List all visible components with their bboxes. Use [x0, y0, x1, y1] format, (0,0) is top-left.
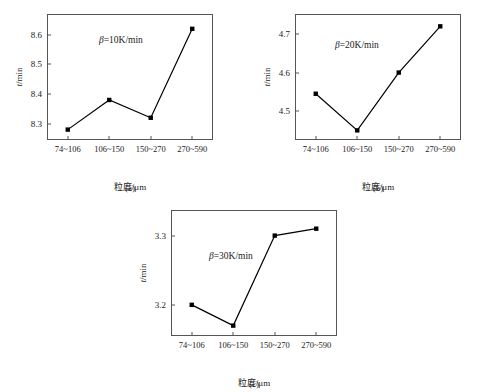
y-axis-unit-a: /min — [14, 67, 24, 84]
x-tick-mark-a-3 — [192, 136, 193, 140]
data-point-a-1 — [107, 98, 111, 102]
plot-area-b: t/min β=20K/min 4.54.64.774~106106~15015… — [295, 14, 461, 140]
y-tick-mark-b-2 — [295, 34, 299, 35]
x-tick-label-a-1: 106~150 — [94, 145, 124, 154]
series-line-a — [47, 14, 213, 140]
y-axis-symbol-b: t — [262, 84, 272, 87]
y-tick-mark-b-0 — [295, 111, 299, 112]
data-point-c-2 — [273, 233, 277, 237]
y-tick-mark-a-0 — [47, 123, 51, 124]
x-tick-label-a-0: 74~106 — [55, 145, 81, 154]
x-tick-label-a-3: 270~590 — [177, 145, 207, 154]
x-tick-label-c-3: 270~590 — [301, 341, 331, 350]
x-tick-mark-c-2 — [274, 332, 275, 336]
data-point-a-2 — [149, 116, 153, 120]
y-tick-mark-c-0 — [171, 304, 175, 305]
data-point-a-0 — [66, 127, 70, 131]
y-axis-title-b: t/min — [262, 67, 272, 86]
y-tick-label-b-1: 4.6 — [279, 68, 290, 77]
y-tick-label-b-0: 4.5 — [279, 107, 290, 116]
y-axis-symbol-c: t — [138, 280, 148, 283]
y-tick-label-a-2: 8.5 — [31, 60, 42, 69]
x-tick-label-b-1: 106~150 — [342, 145, 372, 154]
x-tick-mark-c-1 — [233, 332, 234, 336]
x-tick-label-b-0: 74~106 — [303, 145, 329, 154]
y-axis-symbol-a: t — [14, 84, 24, 87]
data-point-c-3 — [314, 226, 318, 230]
chart-panel-c: t/min β=30K/min 3.23.374~106106~150150~2… — [124, 196, 364, 392]
y-tick-mark-a-1 — [47, 94, 51, 95]
plot-area-c: t/min β=30K/min 3.23.374~106106~150150~2… — [171, 210, 337, 336]
y-tick-mark-c-1 — [171, 235, 175, 236]
series-line-b — [295, 14, 461, 140]
x-tick-mark-b-1 — [357, 136, 358, 140]
data-line-c — [192, 229, 317, 326]
data-point-b-0 — [314, 92, 318, 96]
y-tick-label-c-0: 3.2 — [155, 300, 166, 309]
x-tick-label-b-2: 150~270 — [384, 145, 414, 154]
panel-caption-b: (b) — [295, 184, 461, 193]
data-point-b-2 — [397, 70, 401, 74]
y-tick-mark-a-3 — [47, 34, 51, 35]
y-tick-label-a-1: 8.4 — [31, 90, 42, 99]
x-tick-label-c-2: 150~270 — [260, 341, 290, 350]
y-axis-title-c: t/min — [138, 263, 148, 282]
y-tick-label-c-1: 3.3 — [155, 231, 166, 240]
y-tick-mark-b-1 — [295, 72, 299, 73]
chart-panel-b: t/min β=20K/min 4.54.64.774~106106~15015… — [248, 0, 488, 196]
y-axis-unit-b: /min — [262, 67, 272, 84]
panel-caption-c: (c) — [171, 380, 337, 389]
x-tick-mark-a-0 — [67, 136, 68, 140]
data-point-b-1 — [355, 128, 359, 132]
data-point-b-3 — [438, 24, 442, 28]
y-axis-title-a: t/min — [14, 67, 24, 86]
x-tick-mark-b-2 — [398, 136, 399, 140]
data-point-c-0 — [190, 303, 194, 307]
y-tick-label-a-0: 8.3 — [31, 119, 42, 128]
x-tick-label-c-0: 74~106 — [179, 341, 205, 350]
data-line-b — [316, 26, 441, 130]
y-tick-mark-a-2 — [47, 64, 51, 65]
plot-area-a: t/min β=10K/min 8.38.48.58.674~106106~15… — [47, 14, 213, 140]
chart-panel-a: t/min β=10K/min 8.38.48.58.674~106106~15… — [0, 0, 240, 196]
x-tick-mark-c-3 — [316, 332, 317, 336]
y-tick-label-a-3: 8.6 — [31, 30, 42, 39]
x-tick-mark-b-0 — [315, 136, 316, 140]
x-tick-label-c-1: 106~150 — [218, 341, 248, 350]
x-tick-mark-a-1 — [109, 136, 110, 140]
panel-caption-a: (a) — [47, 184, 213, 193]
data-point-c-1 — [231, 323, 235, 327]
y-axis-unit-c: /min — [138, 263, 148, 280]
series-line-c — [171, 210, 337, 336]
x-tick-label-a-2: 150~270 — [136, 145, 166, 154]
data-line-a — [68, 29, 193, 130]
x-tick-mark-c-0 — [191, 332, 192, 336]
x-tick-label-b-3: 270~590 — [425, 145, 455, 154]
y-tick-label-b-2: 4.7 — [279, 30, 290, 39]
x-tick-mark-b-3 — [440, 136, 441, 140]
data-point-a-3 — [190, 27, 194, 31]
x-tick-mark-a-2 — [150, 136, 151, 140]
